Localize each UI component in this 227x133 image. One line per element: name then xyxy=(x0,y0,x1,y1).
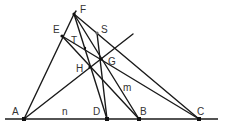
point-d xyxy=(105,117,109,121)
geometry-diagram: A D B C F E S T G H m n xyxy=(0,0,227,133)
label-d: D xyxy=(93,106,100,117)
point-g xyxy=(99,57,102,60)
point-a xyxy=(22,117,26,121)
label-c: C xyxy=(197,106,204,117)
label-g: G xyxy=(108,56,116,67)
segment-af xyxy=(24,14,74,119)
point-e xyxy=(60,34,63,37)
point-f xyxy=(72,12,75,15)
label-n: n xyxy=(62,106,68,117)
point-h xyxy=(88,65,91,68)
label-s: S xyxy=(101,24,108,35)
label-h: H xyxy=(76,63,83,74)
point-s xyxy=(95,31,98,34)
point-c xyxy=(197,117,201,121)
point-t xyxy=(84,47,86,49)
label-m: m xyxy=(123,82,131,93)
label-e: E xyxy=(53,24,60,35)
label-t: T xyxy=(71,35,77,46)
label-a: A xyxy=(12,106,19,117)
label-f: F xyxy=(80,4,86,15)
point-b xyxy=(137,117,141,121)
segment-fc xyxy=(74,14,199,119)
label-b: B xyxy=(140,106,147,117)
segment-eb xyxy=(62,36,139,119)
